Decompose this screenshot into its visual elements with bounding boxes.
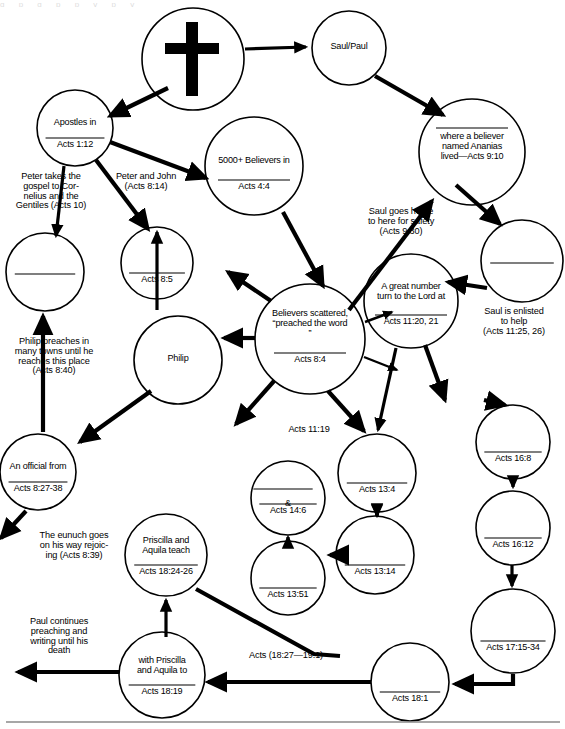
node-ref-iconium: Acts 13:51 bbox=[245, 589, 330, 599]
node-label-priscilla: Priscilla and Aquila teach bbox=[120, 536, 212, 556]
node-ref-priscilla: Acts 18:24-26 bbox=[119, 566, 213, 576]
node-ref-corinth: Acts 18:1 bbox=[365, 693, 455, 703]
node-label-philip: Philip bbox=[129, 354, 228, 364]
node-circle-scattered[interactable] bbox=[255, 284, 365, 394]
edge-antioch-to-troas-2 bbox=[484, 400, 505, 405]
node-circle-cornelius[interactable] bbox=[6, 233, 84, 311]
edge-label-acts-18-27: Acts (18:27—19:1) bbox=[236, 651, 336, 661]
edge-label-peter-cornelius: Peter takes the gospel to Cor- nelius an… bbox=[3, 172, 99, 211]
node-label-saulpaul: Saul/Paul bbox=[307, 42, 390, 52]
node-circle-iconium[interactable] bbox=[251, 541, 325, 615]
edge-scattered-to-samaria-dir bbox=[228, 272, 271, 301]
edge-label-saul-home: Saul goes home to here for safety (Acts … bbox=[355, 207, 447, 236]
node-ref-gaza: Acts 8:27-38 bbox=[0, 483, 82, 493]
node-circle-tarsus[interactable] bbox=[481, 220, 563, 302]
edge-5000-to-scattered bbox=[283, 212, 323, 286]
node-ref-apostles: Acts 1:12 bbox=[31, 139, 118, 149]
edge-antioch-to-cyprus bbox=[378, 348, 396, 430]
edge-cross-to-saulpaul bbox=[245, 47, 306, 49]
node-circle-antiochpis[interactable] bbox=[336, 516, 414, 594]
node-label-ananias: where a believer named Ananias lived—Act… bbox=[412, 132, 531, 161]
node-circle-cyprus[interactable] bbox=[338, 434, 416, 512]
node-circle-troas[interactable] bbox=[476, 405, 550, 479]
node-ref-troas: Acts 16:8 bbox=[470, 453, 555, 463]
node-circle-athens[interactable] bbox=[471, 589, 555, 673]
node-ref-believers5000: Acts 4:4 bbox=[198, 181, 311, 191]
node-circle-philippi[interactable] bbox=[476, 491, 550, 565]
node-ref-scattered: Acts 8:4 bbox=[247, 354, 374, 364]
edge-gaza-to-eunuch bbox=[1, 511, 26, 538]
edge-label-peter-john: Peter and John (Acts 8:14) bbox=[104, 172, 188, 192]
edge-label-saul-enlisted: Saul is enlisted to help (Acts 11:25, 26… bbox=[468, 307, 560, 336]
node-circle-corinth[interactable] bbox=[371, 643, 449, 721]
node-circle-gaza[interactable] bbox=[0, 434, 76, 510]
edge-saulpaul-to-ananias bbox=[375, 76, 443, 115]
node-ref-antiochpis: Acts 13:14 bbox=[330, 566, 420, 576]
node-label-believers5000: 5000+ Believers in bbox=[199, 156, 309, 166]
node-label-gaza: An official from bbox=[0, 462, 81, 472]
node-ref-ephesus: Acts 18:19 bbox=[113, 686, 212, 696]
edge-label-acts-11-19: Acts 11:19 bbox=[277, 425, 341, 435]
node-ref-philippi: Acts 16:12 bbox=[470, 539, 555, 549]
edge-philip-to-gaza bbox=[80, 391, 151, 442]
node-label-scattered: Believers scattered, “preached the word … bbox=[248, 309, 372, 338]
node-label-antioch: A great number turn to the Lord at bbox=[358, 282, 464, 302]
edge-athens-to-corinth bbox=[455, 674, 513, 684]
edge-antioch-to-troas bbox=[425, 345, 445, 400]
edge-label-paul-death: Paul continues preaching and writing unt… bbox=[13, 617, 105, 656]
node-ref-antioch: Acts 11:20, 21 bbox=[357, 316, 465, 326]
edge-cross-to-apostles bbox=[110, 88, 168, 116]
node-ref-athens: Acts 17:15-34 bbox=[465, 642, 562, 652]
edge-label-eunuch: The eunuch goes on his way rejoic- ing (… bbox=[26, 531, 122, 560]
node-ref-derbe: Acts 14:6 bbox=[245, 505, 330, 515]
node-label-apostles: Apostles in bbox=[32, 118, 118, 128]
node-label-ephesus: with Priscilla and Aquila to bbox=[114, 656, 211, 676]
node-ref-cyprus: Acts 13:4 bbox=[332, 484, 422, 494]
node-circle-believers5000[interactable] bbox=[205, 117, 303, 215]
node-circle-apostles[interactable] bbox=[37, 90, 113, 166]
edge-label-philip-preaches: Philip preaches in many towns until he r… bbox=[2, 337, 106, 376]
edge-scattered-to-lower-left bbox=[236, 381, 274, 424]
diagram-canvas: g p g p p y p y bbox=[0, 0, 565, 729]
node-ref-samaria: Acts 8:5 bbox=[116, 274, 199, 284]
